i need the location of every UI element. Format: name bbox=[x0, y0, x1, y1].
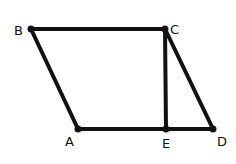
vertex-D bbox=[210, 126, 217, 133]
segment-CE bbox=[165, 29, 166, 129]
vertex-label-A: A bbox=[65, 134, 74, 149]
segment-BA bbox=[31, 29, 78, 129]
vertex-E bbox=[163, 126, 170, 133]
vertex-C bbox=[162, 26, 169, 33]
segment-CD bbox=[165, 29, 213, 129]
vertex-labels: BCAED bbox=[14, 22, 227, 151]
vertex-label-B: B bbox=[14, 23, 23, 38]
segments bbox=[31, 29, 213, 129]
vertex-A bbox=[75, 126, 82, 133]
vertex-B bbox=[28, 26, 35, 33]
vertex-label-C: C bbox=[170, 22, 179, 37]
vertex-label-D: D bbox=[217, 134, 227, 149]
vertex-label-E: E bbox=[162, 136, 170, 151]
geometry-diagram: BCAED bbox=[0, 0, 236, 164]
